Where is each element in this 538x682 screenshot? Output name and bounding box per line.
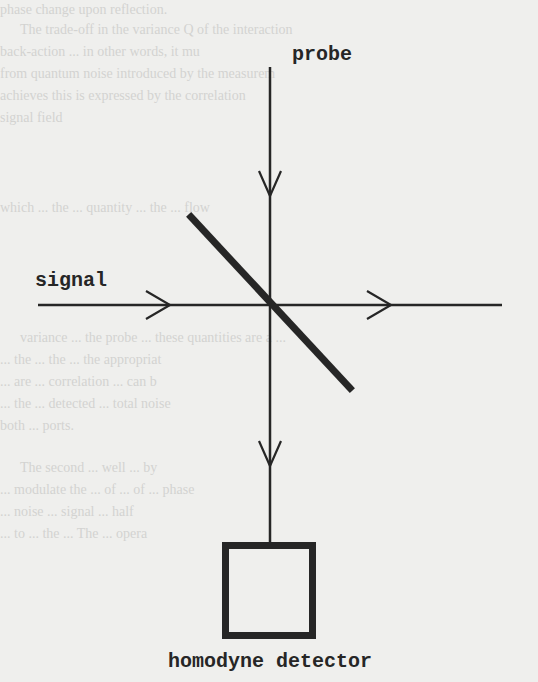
signal-label: signal: [35, 269, 107, 292]
homodyne-diagram: probe signal homodyne detector: [0, 0, 538, 682]
homodyne-detector-label: homodyne detector: [168, 650, 372, 673]
probe-label: probe: [292, 43, 352, 66]
homodyne-detector-box: [226, 546, 313, 636]
